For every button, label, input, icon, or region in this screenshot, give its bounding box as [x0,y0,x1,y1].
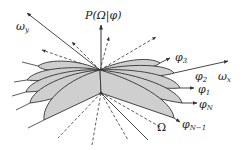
p-axis-label: P(Ω|φ) [84,9,122,23]
phi1-label: φ1 [198,83,210,97]
omega-y-label: ωy [16,20,30,34]
phiN-1-label: φN−1 [182,118,206,132]
origin-point [100,92,103,95]
lobes [26,59,182,120]
probability-lobes-diagram: P(Ω|φ) ωy ωx φ3 φ2 φ1 φN φN−1 Ω [0,0,245,150]
phiN-label: φN [199,98,214,112]
omega-label: Ω [157,121,166,134]
phi3-label: φ3 [175,51,188,65]
omega-x-label: ωx [218,70,231,84]
phi2-label: φ2 [195,70,208,84]
